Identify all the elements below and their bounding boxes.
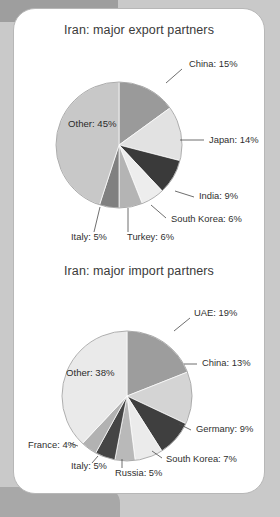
slice-label-italy: Italy: 5% xyxy=(71,231,107,242)
slice-label-china: China: 15% xyxy=(189,58,237,69)
chart-export-partners: Iran: major export partners China: 15%Ja… xyxy=(14,9,264,254)
slice-label-india: India: 9% xyxy=(199,190,238,201)
leader-line-india xyxy=(175,191,194,197)
leader-line-china xyxy=(166,69,182,83)
slice-label-turkey: Turkey: 6% xyxy=(127,231,174,242)
slice-label-italy: Italy: 5% xyxy=(71,460,107,471)
slice-label-uae: UAE: 19% xyxy=(194,307,237,318)
slice-label-germany: Germany: 9% xyxy=(196,423,253,434)
slice-label-south-korea: South Korea: 7% xyxy=(166,453,237,464)
pie-chart-import: UAE: 19%China: 13%Germany: 9%South Korea… xyxy=(14,254,265,494)
slice-label-russia: Russia: 5% xyxy=(115,467,162,478)
slice-label-south-korea: South Korea: 6% xyxy=(171,213,242,224)
slice-label-japan: Japan: 14% xyxy=(209,134,259,145)
pie-chart-export: China: 15%Japan: 14%India: 9%South Korea… xyxy=(14,9,265,254)
slice-label-other: Other: 38% xyxy=(66,367,115,378)
infographic-card: Iran: major export partners China: 15%Ja… xyxy=(13,8,265,494)
leader-line-italy xyxy=(94,207,100,232)
slice-label-france: France: 4% xyxy=(28,439,76,450)
slice-label-other: Other: 45% xyxy=(68,118,117,129)
leader-line-south-korea xyxy=(151,205,166,218)
slice-label-china: China: 13% xyxy=(202,357,250,368)
leader-line-uae xyxy=(174,318,190,331)
chart-import-partners: Iran: major import partners UAE: 19%Chin… xyxy=(14,254,264,494)
